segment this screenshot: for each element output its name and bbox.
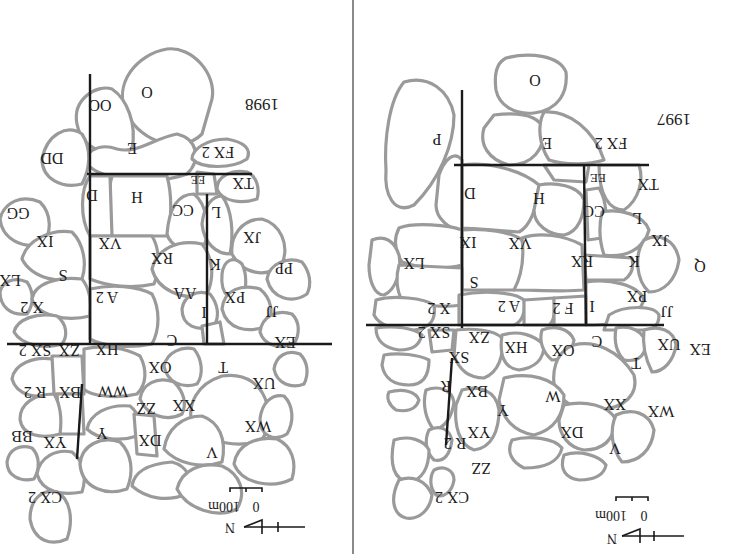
label-PX: PX <box>224 289 245 306</box>
label-CX2: CX 2 <box>28 489 62 506</box>
label-D: D <box>86 187 98 204</box>
label-HX: HX <box>504 339 528 356</box>
label-RX: RX <box>150 250 173 267</box>
label-SX2: SX 2 <box>418 324 450 341</box>
label-FX2: FX 2 <box>202 144 234 161</box>
map-panel-1998: O OO E FX 2 DD TX EE H D CC L GG JX IX V… <box>0 0 352 554</box>
label-ZX: ZX <box>468 329 490 346</box>
year-label-1998: 1998 <box>245 95 279 114</box>
scale-zero: 0 <box>641 508 648 523</box>
label-L: L <box>211 204 221 221</box>
label-R2: R 2 <box>444 435 467 452</box>
label-EE: EE <box>590 171 606 186</box>
label-T: T <box>631 355 641 372</box>
label-K: K <box>209 256 221 273</box>
label-UX: UX <box>657 336 681 353</box>
label-OO: OO <box>88 97 111 114</box>
label-O: O <box>529 72 541 89</box>
label-JX: JX <box>243 229 261 246</box>
territory-cells <box>0 49 310 542</box>
label-EX: EX <box>689 341 711 358</box>
label-V: V <box>206 444 218 461</box>
scale-zero: 0 <box>253 499 260 514</box>
label-I: I <box>201 304 206 321</box>
label-VX: VX <box>508 235 532 252</box>
label-JJ: JJ <box>661 303 673 320</box>
label-R: R <box>440 378 451 395</box>
label-EE: EE <box>191 173 206 187</box>
label-HX: HX <box>95 341 119 358</box>
label-LX: LX <box>403 255 425 272</box>
label-AA: AA <box>173 285 197 302</box>
label-F2: F 2 <box>553 300 574 317</box>
label-XX: XX <box>603 396 627 413</box>
label-EX: EX <box>274 334 296 351</box>
label-W: W <box>545 388 561 405</box>
label-A2: A 2 <box>498 298 521 315</box>
scale-length: 100m <box>208 499 240 514</box>
label-VX: VX <box>98 235 122 252</box>
label-I: I <box>589 298 594 315</box>
label-K: K <box>628 253 640 270</box>
label-DD: DD <box>40 150 63 167</box>
label-SX: SX <box>448 349 469 366</box>
label-Y: Y <box>96 425 108 442</box>
label-DX: DX <box>138 432 162 449</box>
label-S: S <box>470 274 479 291</box>
label-JJ: JJ <box>266 303 278 320</box>
label-X2: X 2 <box>427 300 451 317</box>
label-TX: TX <box>232 175 254 192</box>
label-OX: OX <box>551 342 575 359</box>
label-D: D <box>464 185 476 202</box>
label-YX: YX <box>43 434 67 451</box>
label-X2: X 2 <box>20 299 44 316</box>
map-panel-1997: O P E FX 2 TX EE D H CC L JX IX VX RX K … <box>354 0 744 554</box>
label-TX: TX <box>637 176 659 193</box>
label-ZZ: ZZ <box>136 400 156 417</box>
label-Y: Y <box>497 402 509 419</box>
label-IX: IX <box>36 233 53 250</box>
north-arrow-1998: N <box>225 520 305 535</box>
label-JX: JX <box>651 232 669 249</box>
label-SX2: SX 2 <box>19 342 51 359</box>
label-P: P <box>432 131 441 148</box>
label-BB: BB <box>11 428 32 445</box>
label-CC: CC <box>172 202 193 219</box>
year-label-1997: 1997 <box>657 110 692 129</box>
label-GG: GG <box>6 205 30 222</box>
north-arrow-1997: N <box>607 529 684 546</box>
label-FX2: FX 2 <box>595 135 627 152</box>
label-E: E <box>127 140 137 157</box>
label-BX: BX <box>465 383 488 400</box>
label-C: C <box>167 332 178 349</box>
label-RX: RX <box>570 253 593 270</box>
label-IX: IX <box>459 234 476 251</box>
label-H: H <box>533 190 545 207</box>
label-BX: BX <box>58 384 81 401</box>
label-LX: LX <box>0 272 21 289</box>
label-ZX: ZX <box>58 342 80 359</box>
label-R2: R 2 <box>24 384 47 401</box>
label-OX: OX <box>148 359 172 376</box>
north-label: N <box>225 520 235 535</box>
label-DX: DX <box>560 424 584 441</box>
label-PX: PX <box>626 288 647 305</box>
label-CX2: CX 2 <box>435 489 469 506</box>
label-WX: WX <box>244 418 271 435</box>
label-A2: A 2 <box>96 289 119 306</box>
label-H: H <box>131 189 143 206</box>
label-CC: CC <box>583 203 604 220</box>
label-XX: XX <box>172 397 196 414</box>
territory-map-figure: O OO E FX 2 DD TX EE H D CC L GG JX IX V… <box>0 0 744 554</box>
label-S: S <box>59 267 68 284</box>
scale-bar-1997: 0 100m <box>595 497 648 523</box>
label-O: O <box>141 84 153 101</box>
label-T: T <box>218 359 228 376</box>
label-V: V <box>609 440 621 457</box>
label-L: L <box>632 210 642 227</box>
territory-cells <box>369 55 679 518</box>
label-WX: WX <box>647 403 674 420</box>
label-WW: WW <box>97 383 128 400</box>
label-UX: UX <box>252 375 276 392</box>
north-label: N <box>607 531 617 546</box>
